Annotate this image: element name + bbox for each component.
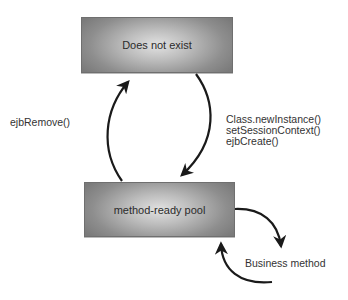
- state-method-ready-pool: method-ready pool: [84, 182, 235, 237]
- transition-label-business-method: Business method: [245, 258, 326, 269]
- transition-label-create: Class.newInstance() setSessionContext() …: [226, 114, 321, 147]
- create-line-ejbcreate: ejbCreate(): [226, 136, 321, 147]
- state-label-does-not-exist: Does not exist: [122, 39, 192, 51]
- arrow-business-out: [235, 209, 281, 246]
- state-label-method-ready-pool: method-ready pool: [114, 204, 206, 216]
- arrow-create: [182, 74, 211, 175]
- state-does-not-exist: Does not exist: [81, 17, 233, 73]
- transition-label-ejbremove: ejbRemove(): [10, 117, 70, 128]
- arrow-ejbremove: [108, 82, 128, 181]
